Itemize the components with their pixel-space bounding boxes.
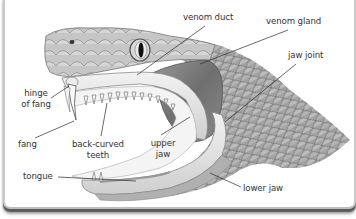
leader-back-curved-teeth (101, 103, 107, 136)
label-back-curved-teeth-line1: back-curved (71, 139, 125, 150)
label-upper-jaw: upper jaw (148, 138, 178, 159)
label-back-curved-teeth-line2: teeth (71, 150, 125, 161)
upper-jaw-shape (62, 72, 208, 179)
label-fang: fang (18, 139, 37, 150)
label-venom-duct: venom duct (183, 12, 233, 23)
label-hinge-of-fang: hinge of fang (20, 88, 52, 109)
label-venom-gland: venom gland (266, 16, 321, 27)
label-jaw-joint: jaw joint (288, 50, 323, 61)
label-back-curved-teeth: back-curved teeth (71, 139, 125, 160)
label-upper-jaw-line1: upper (148, 138, 178, 149)
eye (130, 39, 150, 61)
snake-head-illustration (0, 0, 356, 219)
label-hinge-of-fang-line1: hinge (20, 88, 52, 99)
leader-fang (35, 121, 74, 138)
label-upper-jaw-line2: jaw (148, 149, 178, 160)
label-hinge-of-fang-line2: of fang (20, 99, 52, 110)
label-tongue: tongue (23, 171, 53, 182)
nostril-icon (70, 40, 75, 44)
label-lower-jaw: lower jaw (243, 183, 283, 194)
